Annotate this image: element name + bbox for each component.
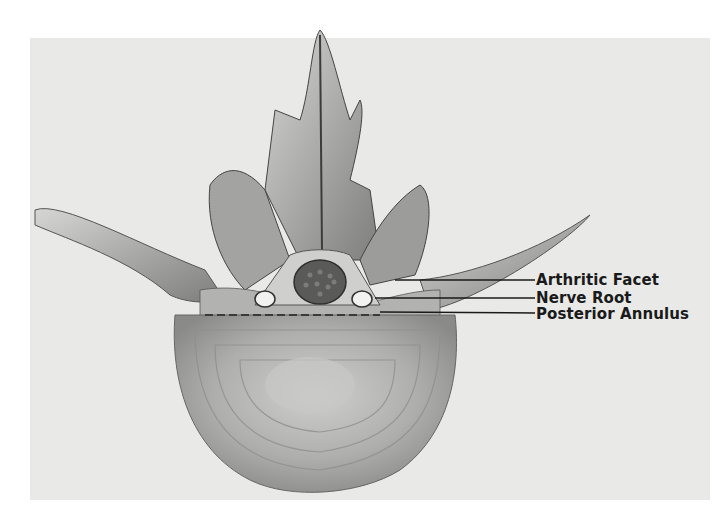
left-transverse-process [35,209,225,302]
spinal-cord [294,260,346,304]
right-nerve-root [352,291,372,307]
label-posterior-annulus: Posterior Annulus [536,305,689,323]
leader-posterior-annulus [380,312,535,313]
label-arthritic-facet: Arthritic Facet [536,271,659,289]
left-nerve-root [255,291,275,307]
vertebra-illustration [0,0,728,523]
